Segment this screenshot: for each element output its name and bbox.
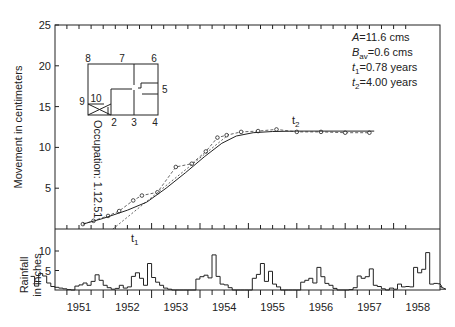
movement-series [81,128,374,229]
svg-text:10: 10 [90,93,102,104]
year-label: 1951 [67,301,91,313]
rainfall-histogram [31,253,446,290]
svg-text:9: 9 [79,96,85,107]
param-t2: t2=4.00 years [352,76,418,91]
rain-tick-label: 5 [45,265,51,277]
y-axis-tick-labels: 510152025510 [39,19,51,277]
svg-text:2: 2 [111,117,117,128]
year-label: 1956 [309,301,333,313]
year-label: 1957 [357,301,381,313]
y-axis-label: Movement in centimeters [12,65,24,188]
y-tick-label: 25 [39,19,51,31]
svg-text:3: 3 [131,117,137,128]
svg-text:8: 8 [85,53,91,64]
y-tick-label: 20 [39,60,51,72]
y-tick-label: 10 [39,141,51,153]
t2-marker: t2 [292,114,300,129]
rain-axis-label-line1: Rainfall [18,257,30,294]
param-A: A=11.6 cms [351,31,410,43]
t1-marker: t1 [131,232,139,247]
param-Bav: Bav=0.6 cms [352,46,413,61]
year-label: 1958 [406,301,430,313]
y-axis-ticks [55,25,59,271]
svg-text:7: 7 [119,53,125,64]
rain-tick-label: 10 [39,245,51,257]
year-label: 1952 [115,301,139,313]
rain-axis-label-line2: in inches [31,253,43,297]
x-axis-year-labels: 19511952195319541955195619571958 [67,301,430,313]
svg-text:4: 4 [152,117,158,128]
y-tick-label: 15 [39,101,51,113]
param-t1: t1=0.78 years [352,61,418,76]
year-label: 1954 [212,301,236,313]
parameter-legend: A=11.6 cms Bav=0.6 cms t1=0.78 years t2=… [351,31,418,91]
year-label: 1953 [164,301,188,313]
house-plan-inset [88,64,158,115]
svg-text:5: 5 [162,84,168,95]
occupation-annotation: Occupation: 1.12.51 [92,120,104,218]
svg-text:6: 6 [151,53,157,64]
year-label: 1955 [260,301,284,313]
chart: Movement in centimeters Rainfall in inch… [0,0,455,327]
y-tick-label: 5 [45,182,51,194]
